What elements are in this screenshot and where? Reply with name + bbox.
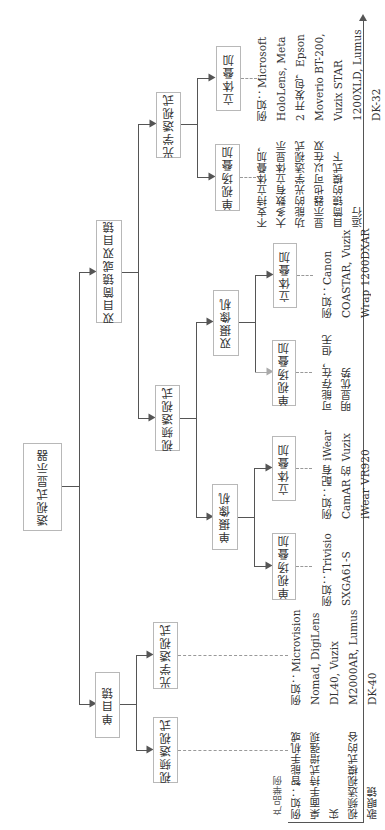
axis-label: 产品举例 bbox=[271, 775, 285, 815]
dashed-connector bbox=[178, 655, 288, 656]
node-optical-stereo: 立体叠加 bbox=[216, 46, 241, 111]
node-monocular: 单目镜 bbox=[95, 672, 120, 738]
node-label: 立体叠加 bbox=[277, 250, 293, 302]
connector bbox=[254, 566, 266, 567]
connector bbox=[197, 78, 198, 178]
axis-arrow-icon bbox=[359, 14, 367, 21]
connector bbox=[62, 486, 79, 487]
connector bbox=[254, 468, 266, 469]
node-label: 视频透视式 bbox=[158, 718, 174, 783]
node-monocular-optical: 光学透视式 bbox=[153, 622, 178, 689]
node-label: 光学透视式 bbox=[161, 93, 177, 158]
dashed-connector bbox=[178, 750, 288, 751]
node-label: 双目筒镜或双目镜 bbox=[101, 220, 117, 324]
dashed-connector bbox=[297, 275, 313, 276]
dashed-connector bbox=[296, 372, 312, 373]
connector bbox=[136, 655, 147, 656]
connector bbox=[138, 124, 139, 419]
node-label: 单目镜 bbox=[100, 686, 116, 725]
node-binocular-video: 视频透视式 bbox=[155, 385, 180, 451]
connector bbox=[120, 704, 136, 705]
node-root: 透视式显示器 bbox=[23, 443, 62, 531]
node-label: 光学透视式 bbox=[158, 623, 174, 688]
node-label: 单摄像机 bbox=[217, 491, 233, 543]
connector bbox=[255, 275, 256, 373]
connector bbox=[136, 655, 137, 750]
node-single-camera-mono: 单视场叠加 bbox=[272, 533, 296, 600]
node-label: 立体叠加 bbox=[276, 443, 292, 495]
connector bbox=[181, 124, 197, 125]
connector bbox=[196, 517, 207, 518]
example-dual-camera-mono: 可能存在，但无 明显优势 bbox=[318, 335, 356, 411]
connector bbox=[238, 517, 254, 518]
example-single-camera-stereo: 例如：配有 iWear CamAR 的 Vuzix iWear VR920 bbox=[318, 425, 375, 519]
node-dual-camera-stereo: 立体叠加 bbox=[273, 243, 297, 308]
connector bbox=[255, 275, 267, 276]
connector bbox=[138, 124, 150, 125]
example-mono-optical: 例如：Microvision Nomad, DigiLens DL40, Vuz… bbox=[287, 599, 382, 705]
connector bbox=[239, 322, 255, 323]
dashed-connector bbox=[296, 468, 312, 469]
node-label: 双摄像机 bbox=[218, 297, 234, 349]
node-single-camera-stereo: 立体叠加 bbox=[272, 436, 296, 501]
connector bbox=[254, 468, 255, 567]
node-dual-camera-mono: 单视场叠加 bbox=[272, 340, 296, 406]
node-binocular: 双目筒镜或双目镜 bbox=[96, 220, 122, 323]
dashed-connector bbox=[296, 566, 312, 567]
connector bbox=[136, 750, 147, 751]
example-dual-camera-stereo: 例如：Canon COASTAR, Vuzix Wrap 1200DXAR bbox=[318, 232, 375, 318]
arrow-icon bbox=[209, 74, 216, 82]
node-label: 单视场叠加 bbox=[220, 145, 236, 210]
example-single-camera-mono: 例如：Trivisio SXGA61-S bbox=[318, 530, 356, 606]
connector bbox=[197, 78, 209, 79]
node-optical-mono: 单视场叠加 bbox=[215, 144, 240, 211]
node-label: 立体叠加 bbox=[221, 53, 237, 105]
connector bbox=[255, 372, 267, 373]
connector bbox=[79, 272, 80, 705]
axis-line bbox=[288, 822, 364, 823]
node-monocular-video: 视频透视式 bbox=[153, 717, 178, 783]
connector bbox=[180, 418, 196, 419]
example-optical-stereo: 例如：Microsoft HoloLens, Meta 2 开发包，Epson … bbox=[253, 25, 385, 121]
node-binocular-optical: 光学透视式 bbox=[156, 92, 181, 158]
node-label: 透视式显示器 bbox=[35, 448, 51, 526]
node-label: 视频透视式 bbox=[160, 386, 176, 451]
node-single-camera: 单摄像机 bbox=[212, 484, 238, 550]
example-optical-mono: 不支持立体叠加， 大多数有立体显示 功能的光学透视式 显示器也可以在双 目筒镜的… bbox=[253, 125, 367, 228]
connector bbox=[197, 177, 209, 178]
connector bbox=[196, 322, 197, 518]
connector bbox=[196, 322, 207, 323]
node-label: 单视场叠加 bbox=[276, 534, 292, 599]
example-mono-video: 例如：智能手机或 桌面手持式增强现 实 视频透视模式的谷 歌眼镜 bbox=[287, 705, 382, 819]
node-label: 单视场叠加 bbox=[276, 341, 292, 406]
connector bbox=[122, 272, 138, 273]
node-dual-camera: 双摄像机 bbox=[213, 290, 239, 356]
